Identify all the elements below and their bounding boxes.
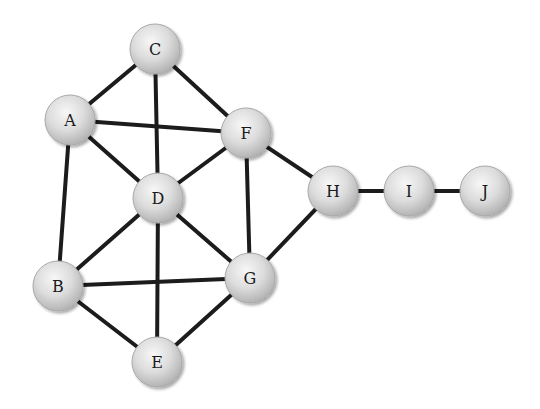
- node-e: E: [132, 337, 182, 387]
- node-label: C: [149, 40, 161, 59]
- node-f: F: [221, 108, 271, 158]
- edge-b-g: [58, 278, 250, 286]
- node-i: I: [384, 166, 434, 216]
- node-label: B: [52, 277, 64, 296]
- node-g: G: [225, 253, 275, 303]
- graph-diagram: CAFDHIJBGE: [0, 0, 540, 409]
- node-label: J: [480, 182, 488, 201]
- node-label: A: [63, 111, 76, 130]
- node-label: F: [240, 124, 251, 143]
- node-a: A: [45, 95, 95, 145]
- node-label: H: [326, 182, 340, 201]
- node-label: G: [244, 269, 257, 288]
- node-j: J: [460, 166, 510, 216]
- node-label: E: [151, 353, 163, 372]
- node-d: D: [133, 173, 183, 223]
- node-h: H: [308, 166, 358, 216]
- nodes-layer: CAFDHIJBGE: [33, 24, 510, 387]
- node-b: B: [33, 261, 83, 311]
- node-label: I: [406, 182, 412, 201]
- node-label: D: [152, 189, 165, 208]
- node-c: C: [130, 24, 180, 74]
